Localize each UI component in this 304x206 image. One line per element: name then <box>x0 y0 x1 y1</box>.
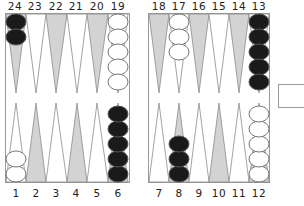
point-label-9: 9 <box>189 187 209 199</box>
checkers-point-17[interactable] <box>169 14 189 60</box>
point-label-18: 18 <box>149 0 169 12</box>
point-label-24: 24 <box>5 0 25 12</box>
point-11[interactable] <box>229 103 249 182</box>
point-21[interactable] <box>67 14 87 93</box>
point-15[interactable] <box>209 14 229 93</box>
point-16[interactable] <box>189 14 209 93</box>
point-label-4: 4 <box>66 187 86 199</box>
point-label-6: 6 <box>108 187 128 199</box>
point-10[interactable] <box>209 103 229 182</box>
point-20[interactable] <box>87 14 108 93</box>
point-label-14: 14 <box>229 0 249 12</box>
point-label-13: 13 <box>249 0 269 12</box>
point-label-10: 10 <box>209 187 229 199</box>
point-23[interactable] <box>26 14 46 93</box>
point-14[interactable] <box>229 14 249 93</box>
point-label-23: 23 <box>25 0 45 12</box>
checkers-point-6[interactable] <box>108 106 128 182</box>
point-label-2: 2 <box>26 187 46 199</box>
point-label-12: 12 <box>249 187 269 199</box>
point-label-7: 7 <box>149 187 169 199</box>
point-label-15: 15 <box>209 0 229 12</box>
checkers-point-12[interactable] <box>249 106 269 182</box>
point-7[interactable] <box>149 103 169 182</box>
point-3[interactable] <box>46 103 67 182</box>
points-and-checkers <box>5 13 270 183</box>
point-label-11: 11 <box>229 187 249 199</box>
checkers-point-19[interactable] <box>108 14 128 90</box>
doubling-cube[interactable] <box>278 84 304 108</box>
point-2[interactable] <box>26 103 46 182</box>
point-4[interactable] <box>67 103 87 182</box>
point-22[interactable] <box>46 14 67 93</box>
point-label-1: 1 <box>6 187 26 199</box>
point-label-16: 16 <box>189 0 209 12</box>
point-label-5: 5 <box>87 187 107 199</box>
point-label-21: 21 <box>66 0 86 12</box>
backgammon-board <box>5 13 270 183</box>
point-label-19: 19 <box>108 0 128 12</box>
point-label-22: 22 <box>46 0 66 12</box>
point-label-20: 20 <box>87 0 107 12</box>
point-label-17: 17 <box>169 0 189 12</box>
point-18[interactable] <box>149 14 169 93</box>
checkers-point-8[interactable] <box>169 136 189 182</box>
point-5[interactable] <box>87 103 108 182</box>
point-label-8: 8 <box>169 187 189 199</box>
checkers-point-13[interactable] <box>249 14 269 90</box>
point-9[interactable] <box>189 103 209 182</box>
point-label-3: 3 <box>46 187 66 199</box>
